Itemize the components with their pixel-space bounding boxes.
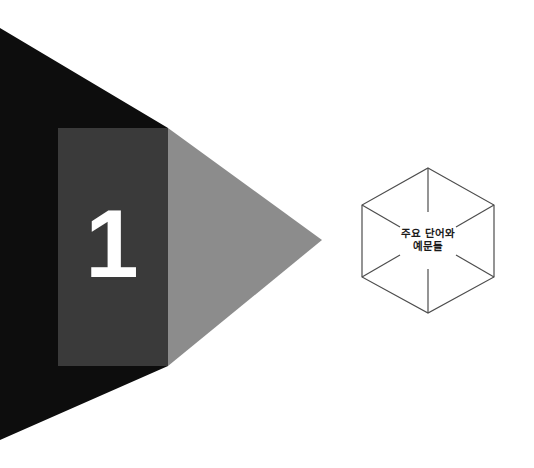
chapter-artwork: 1 주요 단어와 예문들 [0,0,534,468]
chapter-number: 1 [85,190,138,297]
hexagon-label-line1: 주요 단어와 [401,227,455,239]
chapter-opener-page: 1 주요 단어와 예문들 [0,0,534,468]
hexagon-label-line2: 예문들 [413,240,443,252]
